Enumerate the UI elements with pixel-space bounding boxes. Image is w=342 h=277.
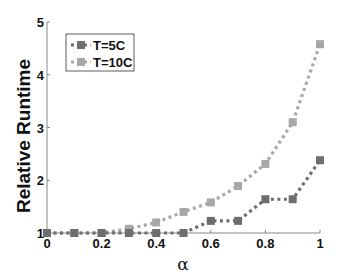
data-point-marker xyxy=(152,229,160,237)
data-point-marker xyxy=(289,195,297,203)
legend-marker-icon xyxy=(77,58,85,66)
line-chart: 1234500.20.40.60.81 Relative Runtime α T… xyxy=(0,0,342,277)
data-point-marker xyxy=(234,182,242,190)
data-point-marker xyxy=(207,217,215,225)
data-point-marker xyxy=(152,218,160,226)
data-point-marker xyxy=(261,160,269,168)
x-tick-label: 0 xyxy=(43,236,50,251)
x-tick-label: 1 xyxy=(316,236,323,251)
y-tick-label: 3 xyxy=(37,121,44,136)
data-point-marker xyxy=(125,229,133,237)
data-point-marker xyxy=(70,229,78,237)
data-point-marker xyxy=(234,217,242,225)
legend-marker-icon xyxy=(77,41,85,49)
legend-label: T=10C xyxy=(93,55,133,70)
series-t-5c xyxy=(43,156,324,237)
x-tick-label: 0.6 xyxy=(202,236,220,251)
series-line xyxy=(47,44,320,233)
x-tick-label: 0.2 xyxy=(93,236,111,251)
data-point-marker xyxy=(180,229,188,237)
data-point-marker xyxy=(98,229,106,237)
x-axis-label: α xyxy=(177,254,189,274)
legend: T=5CT=10C xyxy=(66,34,134,71)
data-point-marker xyxy=(207,198,215,206)
x-tick-label: 0.8 xyxy=(256,236,274,251)
y-tick-label: 4 xyxy=(37,68,45,83)
data-point-marker xyxy=(180,208,188,216)
data-point-marker xyxy=(43,229,51,237)
legend-label: T=5C xyxy=(93,38,126,53)
y-axis-label: Relative Runtime xyxy=(13,59,34,213)
data-point-marker xyxy=(261,195,269,203)
series-line xyxy=(47,160,320,233)
data-point-marker xyxy=(316,156,324,164)
data-point-marker xyxy=(316,40,324,48)
data-point-marker xyxy=(289,118,297,126)
y-tick-label: 2 xyxy=(37,173,44,188)
x-tick-label: 0.4 xyxy=(147,236,166,251)
y-tick-label: 5 xyxy=(37,15,44,30)
